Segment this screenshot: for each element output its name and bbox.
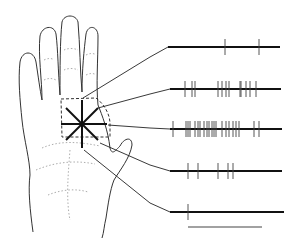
spike-train-1	[150, 39, 280, 57]
spike-train-4	[150, 163, 282, 179]
spike-trains	[150, 39, 284, 220]
leader-lines	[83, 57, 150, 203]
palm-creases	[36, 49, 100, 221]
diagram-canvas	[0, 0, 297, 249]
spike-train-3	[150, 121, 282, 137]
spike-train-2	[150, 81, 281, 97]
spike-train-5	[150, 203, 284, 220]
